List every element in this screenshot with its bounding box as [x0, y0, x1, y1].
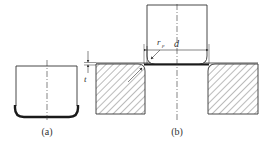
punch-radius-label: r: [157, 37, 161, 47]
left-die: [96, 64, 145, 114]
punch-radius-subscript: p: [161, 43, 165, 48]
thickness-label: t: [84, 74, 87, 84]
part-b-assembly: [84, 4, 258, 122]
part-a-cup: [15, 60, 78, 120]
cup-bottom-thick: [15, 105, 78, 117]
deep-drawing-diagram: (a) r p d t (b): [0, 0, 268, 146]
right-die: [208, 64, 258, 114]
caption-a: (a): [41, 126, 52, 138]
caption-b: (b): [171, 126, 183, 138]
